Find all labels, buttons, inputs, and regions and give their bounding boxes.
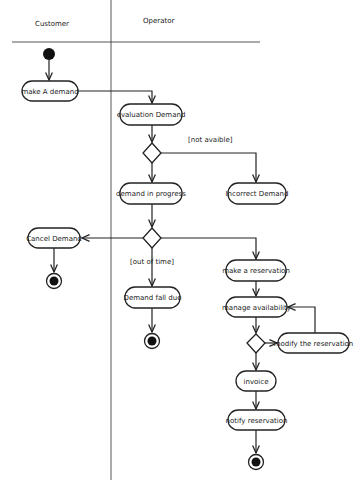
initial-node — [43, 48, 55, 60]
edge-make-demand-to-evaluation — [78, 91, 152, 103]
action-invoice[interactable]: invoice — [236, 371, 276, 391]
action-notify-reservation[interactable]: notify reservation — [226, 410, 288, 430]
action-demand-fall-due-label: Demand fall due — [124, 294, 182, 302]
action-invoice-label: invoice — [244, 378, 269, 386]
guard-out-of-time: [out of time] — [130, 258, 174, 266]
guard-not-available: [not avaible] — [188, 136, 233, 144]
action-modify-reservation-label: modify the reservation — [274, 340, 354, 348]
action-evaluation-demand-label: evaluation Demand — [117, 111, 186, 119]
action-demand-in-progress-label: demand in progress — [116, 190, 186, 198]
action-evaluation-demand[interactable]: evaluation Demand — [117, 104, 186, 125]
action-incorrect-demand[interactable]: Incorrect Demand — [226, 183, 289, 204]
lane-operator-label: Operator — [143, 17, 174, 25]
edge-decision-2-to-make-reservation — [161, 238, 256, 259]
action-notify-reservation-label: notify reservation — [226, 417, 288, 425]
lane-customer-label: Customer — [35, 20, 69, 28]
action-manage-availability[interactable]: manage availability — [222, 297, 291, 317]
action-make-demand[interactable]: make A demand — [21, 81, 78, 101]
final-node-customer — [47, 274, 62, 289]
decision-node-reservation — [247, 334, 265, 353]
action-make-demand-label: make A demand — [21, 88, 78, 96]
activity-diagram: Customer Operator [not avaible] [out of … — [0, 0, 364, 491]
action-cancel-demand-label: Cancel Demand — [26, 235, 82, 243]
final-node-fall-due — [145, 334, 160, 349]
action-incorrect-demand-label: Incorrect Demand — [226, 190, 289, 198]
action-demand-fall-due[interactable]: Demand fall due — [124, 287, 182, 308]
decision-node-availability — [143, 143, 161, 163]
action-make-reservation[interactable]: make a reservation — [222, 260, 290, 281]
action-manage-availability-label: manage availability — [222, 304, 291, 312]
edge-modify-to-manage — [288, 307, 315, 333]
action-demand-in-progress[interactable]: demand in progress — [116, 183, 186, 204]
action-cancel-demand[interactable]: Cancel Demand — [26, 228, 82, 248]
decision-node-progress — [143, 228, 161, 248]
action-modify-reservation[interactable]: modify the reservation — [274, 333, 354, 353]
edge-decision-1-to-incorrect — [161, 153, 256, 182]
action-make-reservation-label: make a reservation — [222, 267, 290, 275]
final-node-operator — [249, 455, 264, 470]
